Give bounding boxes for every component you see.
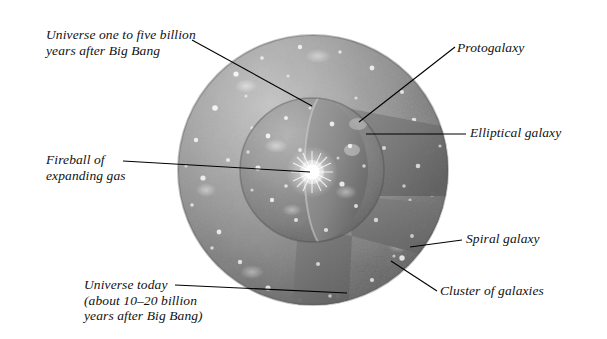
label-fireball: Fireball of expanding gas xyxy=(46,152,126,183)
label-universe-today: Universe today (about 10–20 billion year… xyxy=(84,277,203,324)
label-spiral-galaxy: Spiral galaxy xyxy=(466,231,540,247)
label-protogalaxy: Protogalaxy xyxy=(457,40,524,56)
label-universe-early: Universe one to five billion years after… xyxy=(46,27,196,58)
fireball-core xyxy=(286,146,338,198)
label-elliptical-galaxy: Elliptical galaxy xyxy=(470,125,561,141)
elliptical-galaxy-blob xyxy=(344,144,360,156)
universe-expansion-figure: Universe one to five billion years after… xyxy=(0,0,607,339)
label-cluster-of-galaxies: Cluster of galaxies xyxy=(440,283,544,299)
